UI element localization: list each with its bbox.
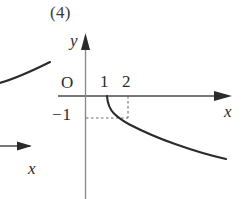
graph-canvas xyxy=(0,0,246,199)
figure-panel: (4) y x x O 1 2 −1 xyxy=(0,0,246,199)
adjacent-figure-x-axis-label: x xyxy=(28,160,36,177)
origin-label: O xyxy=(61,74,73,91)
panel-number-label: (4) xyxy=(50,4,71,21)
function-curve xyxy=(107,96,226,159)
x-axis-arrowhead xyxy=(214,91,232,101)
y-axis-arrowhead xyxy=(81,33,90,50)
y-tick-label-neg1: −1 xyxy=(52,106,72,123)
x-tick-label-1: 1 xyxy=(100,73,109,90)
x-tick-label-2: 2 xyxy=(122,73,131,90)
x-axis-label: x xyxy=(224,103,232,120)
y-axis-label: y xyxy=(70,32,78,49)
adjacent-figure-x-axis-arrowhead xyxy=(17,142,32,151)
adjacent-figure-curve-fragment xyxy=(0,62,50,84)
